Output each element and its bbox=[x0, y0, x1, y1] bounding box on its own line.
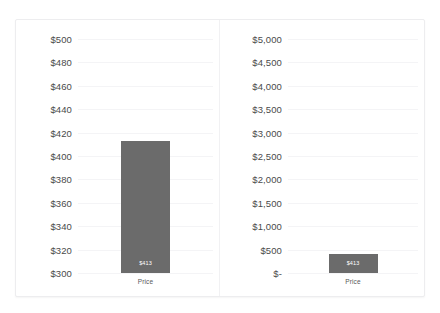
gridline bbox=[78, 133, 213, 134]
gridline bbox=[78, 109, 213, 110]
charts-panel: $500$480$460$440$420$400$380$360$340$320… bbox=[15, 19, 425, 297]
y-tick-label: $380 bbox=[50, 174, 72, 185]
bar[interactable]: $413 bbox=[121, 141, 170, 273]
y-tick-label: $1,000 bbox=[252, 221, 282, 232]
chart-right[interactable]: $5,000$4,500$4,000$3,500$3,000$2,500$2,0… bbox=[219, 20, 424, 296]
bar-data-label: $413 bbox=[329, 261, 378, 267]
y-tick-label: $400 bbox=[50, 151, 72, 162]
y-tick-label: $2,500 bbox=[252, 151, 282, 162]
gridline bbox=[288, 109, 418, 110]
gridline bbox=[78, 273, 213, 274]
y-tick-label: $500 bbox=[50, 34, 72, 45]
plot-area-right: $413Price bbox=[288, 20, 418, 296]
gridline bbox=[288, 39, 418, 40]
y-tick-label: $- bbox=[273, 268, 282, 279]
y-tick-label: $3,000 bbox=[252, 127, 282, 138]
y-axis-left: $500$480$460$440$420$400$380$360$340$320… bbox=[16, 20, 78, 296]
gridline bbox=[288, 179, 418, 180]
gridline bbox=[288, 203, 418, 204]
x-category-label: Price bbox=[345, 278, 360, 285]
x-category-label: Price bbox=[138, 278, 153, 285]
y-tick-label: $420 bbox=[50, 127, 72, 138]
y-tick-label: $4,000 bbox=[252, 80, 282, 91]
gridline bbox=[288, 133, 418, 134]
y-tick-label: $500 bbox=[260, 244, 282, 255]
y-tick-label: $3,500 bbox=[252, 104, 282, 115]
y-axis-right: $5,000$4,500$4,000$3,500$3,000$2,500$2,0… bbox=[220, 20, 288, 296]
gridline bbox=[78, 62, 213, 63]
bar[interactable]: $413 bbox=[329, 254, 378, 273]
y-tick-label: $360 bbox=[50, 197, 72, 208]
chart-left[interactable]: $500$480$460$440$420$400$380$360$340$320… bbox=[16, 20, 219, 296]
bar-data-label: $413 bbox=[121, 261, 170, 267]
gridline bbox=[288, 86, 418, 87]
y-tick-label: $5,000 bbox=[252, 34, 282, 45]
gridline bbox=[288, 226, 418, 227]
y-tick-label: $1,500 bbox=[252, 197, 282, 208]
gridline bbox=[288, 156, 418, 157]
y-tick-label: $300 bbox=[50, 268, 72, 279]
y-tick-label: $340 bbox=[50, 221, 72, 232]
gridline bbox=[78, 86, 213, 87]
y-tick-label: $480 bbox=[50, 57, 72, 68]
y-tick-label: $4,500 bbox=[252, 57, 282, 68]
y-tick-label: $460 bbox=[50, 80, 72, 91]
plot-area-left: $413Price bbox=[78, 20, 213, 296]
y-tick-label: $320 bbox=[50, 244, 72, 255]
gridline bbox=[288, 62, 418, 63]
y-tick-label: $440 bbox=[50, 104, 72, 115]
y-tick-label: $2,000 bbox=[252, 174, 282, 185]
gridline bbox=[288, 250, 418, 251]
gridline bbox=[288, 273, 418, 274]
gridline bbox=[78, 39, 213, 40]
